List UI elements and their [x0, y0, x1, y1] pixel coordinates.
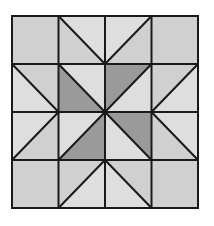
quilt-cell	[152, 16, 199, 64]
quilt-cell	[12, 16, 59, 64]
square-patch	[12, 160, 59, 208]
square-patch	[12, 16, 59, 64]
quilt-cell	[12, 160, 59, 208]
square-patch	[152, 160, 199, 208]
quilt-diagram-stage	[0, 0, 214, 226]
quilt-block-diagram	[0, 0, 214, 226]
quilt-cell	[152, 160, 199, 208]
square-patch	[152, 16, 199, 64]
